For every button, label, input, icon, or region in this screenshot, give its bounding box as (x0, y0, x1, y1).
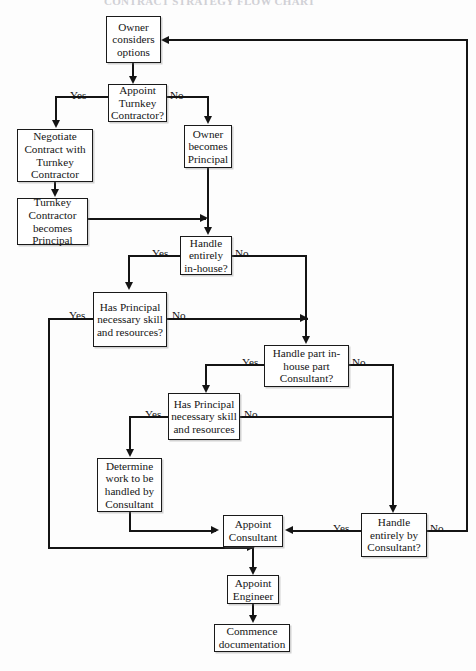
node-label: Appoint Turnkey Contractor? (111, 84, 164, 122)
node-appoint-consultant[interactable]: Appoint Consultant (223, 515, 283, 547)
node-negotiate-contract[interactable]: Negotiate Contract with Turnkey Contract… (17, 129, 93, 182)
node-label: Commence documentation (217, 625, 287, 650)
arrowhead-left-owner-considers (161, 36, 169, 44)
edge-label-skill2-no: No (244, 408, 258, 420)
arrowhead-right-appoint-consultant (211, 526, 219, 534)
edge-part-no-vertical (392, 364, 394, 506)
node-label: Determine work to be handled by Consulta… (100, 460, 159, 510)
node-handle-entirely-inhouse[interactable]: Handle entirely in-house? (180, 236, 232, 275)
edge-label-part-no: No (352, 356, 366, 368)
node-appoint-turnkey-contractor[interactable]: Appoint Turnkey Contractor? (108, 84, 167, 122)
edge-label-turnkey-no: No (170, 89, 184, 101)
flowchart-page: CONTRACT STRATEGY FLOW CHART (0, 0, 476, 671)
node-label: Handle entirely in-house? (183, 237, 229, 275)
node-label: Handle entirely by Consultant? (364, 516, 424, 554)
page-title: CONTRACT STRATEGY FLOW CHART (104, 0, 372, 5)
edge-consultant-yes-horizontal (291, 530, 362, 532)
edge-turnkey-yes-vertical (55, 96, 57, 121)
edge-label-skill1-no: No (172, 309, 186, 321)
edge-determine-to-consultant-vertical (129, 512, 131, 532)
edge-consultant-no-vertical (466, 39, 468, 532)
edge-skill2-no-horizontal (239, 416, 394, 418)
edge-consultant-to-engineer (252, 547, 254, 568)
node-label: Has Principal necessary skill and resour… (171, 398, 237, 436)
edge-skill1-yes-to-consultant (48, 547, 253, 549)
edge-label-inhouse-yes: Yes (152, 247, 168, 259)
node-owner-considers-options[interactable]: Owner considers options (106, 16, 161, 63)
edge-label-consultant-no: No (430, 522, 444, 534)
node-determine-work[interactable]: Determine work to be handled by Consulta… (97, 458, 162, 512)
node-label: Appoint Engineer (230, 577, 276, 602)
edge-owner-to-turnkey (132, 63, 134, 77)
edge-ownerprincipal-to-inhouse (207, 168, 209, 228)
edge-skill1-no-horizontal (166, 318, 308, 320)
edge-part-yes-vertical (205, 364, 207, 386)
edge-label-consultant-yes: Yes (333, 522, 349, 534)
edge-label-skill1-yes: Yes (69, 309, 85, 321)
node-handle-part-inhouse[interactable]: Handle part in-house part Consultant? (264, 345, 349, 387)
edge-determine-to-consultant-horizontal (129, 530, 216, 532)
node-label: Owner considers options (109, 21, 158, 59)
arrowhead-down-part-inhouse (302, 336, 310, 344)
edge-inhouse-no-vertical (305, 255, 307, 337)
node-label: Negotiate Contract with Turnkey Contract… (20, 130, 90, 180)
node-label: Handle part in-house part Consultant? (267, 347, 346, 385)
node-label: Turnkey Contractor becomes Principal (20, 196, 85, 246)
edge-turnkeyprincipal-to-junction (88, 218, 206, 220)
node-has-principal-skill-2[interactable]: Has Principal necessary skill and resour… (168, 393, 240, 440)
arrowhead-down-determine-work (126, 449, 134, 457)
edge-skill2-yes-vertical (129, 416, 131, 450)
arrowhead-down-skill1 (125, 282, 133, 290)
edge-label-turnkey-yes: Yes (70, 89, 86, 101)
arrowhead-down-engineer (249, 567, 257, 575)
edge-skill1-yes-vertical (48, 318, 50, 548)
node-turnkey-becomes-principal[interactable]: Turnkey Contractor becomes Principal (17, 198, 88, 245)
node-label: Has Principal necessary skill and resour… (96, 301, 164, 339)
edge-label-part-yes: Yes (242, 356, 258, 368)
arrowhead-down-handle-consultant (389, 505, 397, 513)
arrowhead-left-appoint-consultant (285, 526, 293, 534)
node-label: Appoint Consultant (226, 518, 280, 543)
arrowhead-down-skill2 (202, 385, 210, 393)
edge-consultant-no-return (168, 39, 468, 41)
arrowhead-down-documentation (249, 615, 257, 623)
arrowhead-down-negotiate (52, 120, 60, 128)
arrowhead-down-owner-principal (204, 116, 212, 124)
arrowhead-right-skill1-no (300, 314, 308, 322)
arrowhead-down-inhouse (204, 227, 212, 235)
edge-inhouse-yes-vertical (128, 255, 130, 283)
node-has-principal-skill-1[interactable]: Has Principal necessary skill and resour… (93, 292, 167, 347)
edge-label-skill2-yes: Yes (145, 408, 161, 420)
node-owner-becomes-principal[interactable]: Owner becomes Principal (184, 125, 232, 168)
edge-turnkey-no-vertical (207, 96, 209, 117)
arrowhead-down-turnkey (129, 76, 137, 84)
edge-label-inhouse-no: No (235, 247, 249, 259)
node-label: Owner becomes Principal (187, 128, 229, 166)
node-commence-documentation[interactable]: Commence documentation (214, 624, 290, 652)
node-handle-entirely-consultant[interactable]: Handle entirely by Consultant? (361, 513, 427, 557)
node-appoint-engineer[interactable]: Appoint Engineer (227, 575, 279, 604)
